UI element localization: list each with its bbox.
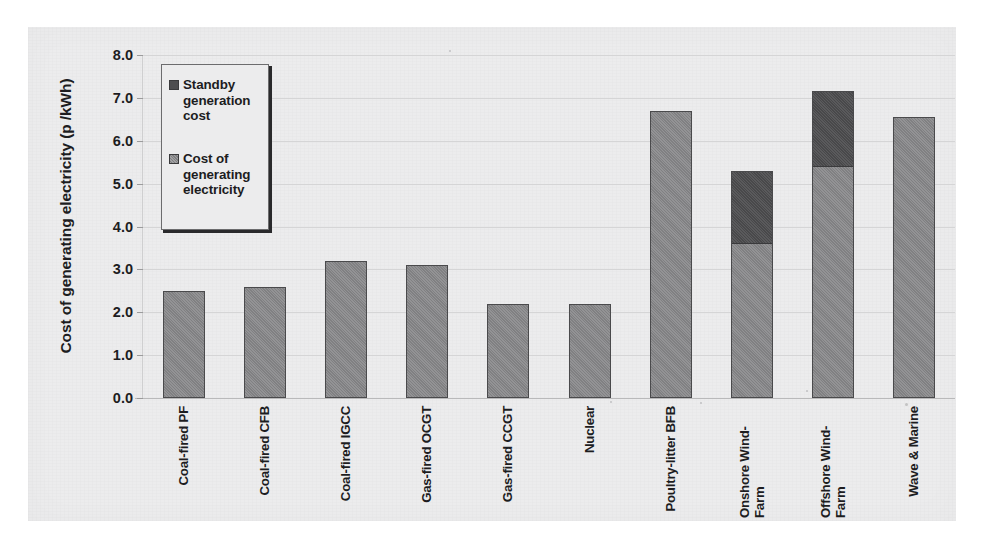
bar-segment-generation[interactable] — [326, 262, 366, 397]
bar[interactable] — [406, 265, 448, 398]
chart-legend: Standby generation cost Cost of generati… — [161, 64, 269, 230]
x-axis-category-label: Coal-fired PF — [176, 406, 191, 485]
bar-segment-standby[interactable] — [813, 92, 853, 167]
bar-segment-generation[interactable] — [407, 266, 447, 397]
bar[interactable] — [893, 117, 935, 398]
bar[interactable] — [731, 171, 773, 398]
bar-slot — [874, 55, 955, 398]
bar-slot — [711, 55, 792, 398]
x-axis-category-label: Coal-fired IGCC — [339, 406, 354, 501]
bar-slot — [793, 55, 874, 398]
bar[interactable] — [163, 291, 205, 398]
y-axis-tick-mark — [137, 141, 143, 142]
scanned-figure-page: Cost of generating electricity (p /kWh) … — [0, 0, 985, 551]
y-axis-tick-mark — [137, 98, 143, 99]
y-axis-title: Cost of generating electricity (p /kWh) — [57, 36, 83, 396]
legend-label-standby: Standby generation cost — [183, 77, 268, 124]
y-axis-tick-label: 0.0 — [87, 390, 133, 406]
y-axis-tick-label: 1.0 — [87, 347, 133, 363]
y-axis-tick-labels: 8.07.06.05.04.03.02.01.00.0 — [85, 55, 133, 398]
x-label-slot: Onshore Wind- Farm — [711, 406, 792, 526]
legend-label-generation: Cost of generating electricity — [183, 151, 268, 198]
bar-segment-generation[interactable] — [488, 305, 528, 397]
x-label-slot: Coal-fired CFB — [224, 406, 305, 526]
y-axis-tick-label: 3.0 — [87, 261, 133, 277]
x-axis-category-label: Gas-fired CCGT — [501, 406, 516, 502]
y-axis-tick-mark — [137, 312, 143, 313]
bar[interactable] — [325, 261, 367, 398]
y-axis-tick-label: 8.0 — [87, 47, 133, 63]
x-axis-category-label: Wave & Marine — [907, 406, 922, 497]
x-axis-category-label: Onshore Wind- Farm — [737, 406, 766, 518]
bar[interactable] — [244, 287, 286, 398]
bar-segment-generation[interactable] — [894, 118, 934, 397]
x-label-slot: Coal-fired IGCC — [305, 406, 386, 526]
x-label-slot: Nuclear — [549, 406, 630, 526]
y-axis-tick-mark — [137, 355, 143, 356]
bar-segment-generation[interactable] — [570, 305, 610, 397]
bar-segment-generation[interactable] — [732, 244, 772, 397]
x-axis-category-label: Gas-fired OCGT — [420, 406, 435, 503]
x-label-slot: Gas-fired CCGT — [468, 406, 549, 526]
scan-speck — [905, 403, 908, 406]
x-label-slot: Offshore Wind- Farm — [793, 406, 874, 526]
y-axis-tick-label: 4.0 — [87, 219, 133, 235]
bar-slot — [387, 55, 468, 398]
x-axis-baseline — [135, 398, 955, 399]
bar-segment-generation[interactable] — [245, 288, 285, 397]
scan-speck — [610, 401, 612, 403]
bar[interactable] — [487, 304, 529, 398]
x-label-slot: Poultry-litter BFB — [630, 406, 711, 526]
x-label-slot: Wave & Marine — [874, 406, 955, 526]
bar-segment-generation[interactable] — [651, 112, 691, 397]
y-axis-tick-mark — [137, 398, 143, 399]
y-axis-tick-label: 6.0 — [87, 133, 133, 149]
scan-speck — [700, 402, 702, 404]
x-label-slot: Coal-fired PF — [143, 406, 224, 526]
bar-slot — [630, 55, 711, 398]
y-axis-tick-mark — [137, 269, 143, 270]
y-axis-tick-mark — [137, 184, 143, 185]
mid-grey-swatch-icon — [169, 154, 179, 164]
dark-grey-swatch-icon — [169, 80, 179, 90]
bar-slot — [549, 55, 630, 398]
bar-slot — [305, 55, 386, 398]
legend-entry-generation: Cost of generating electricity — [169, 151, 268, 198]
bar-segment-generation[interactable] — [164, 292, 204, 397]
x-axis-category-label: Poultry-litter BFB — [664, 406, 679, 512]
x-label-slot: Gas-fired OCGT — [387, 406, 468, 526]
bar[interactable] — [569, 304, 611, 398]
scan-speck — [449, 50, 451, 52]
y-axis-tick-label: 5.0 — [87, 176, 133, 192]
bar-segment-standby[interactable] — [732, 172, 772, 244]
y-axis-tick-mark — [137, 55, 143, 56]
bar-segment-generation[interactable] — [813, 167, 853, 397]
bar[interactable] — [650, 111, 692, 398]
x-axis-category-label: Offshore Wind- Farm — [819, 406, 848, 518]
y-axis-tick-label: 7.0 — [87, 90, 133, 106]
bar-slot — [468, 55, 549, 398]
x-axis-category-label: Coal-fired CFB — [258, 406, 273, 496]
x-axis-category-label: Nuclear — [582, 406, 597, 453]
y-axis-tick-mark — [137, 227, 143, 228]
legend-entry-standby: Standby generation cost — [169, 77, 268, 124]
bar[interactable] — [812, 91, 854, 398]
scan-speck — [806, 390, 808, 392]
y-axis-tick-label: 2.0 — [87, 304, 133, 320]
